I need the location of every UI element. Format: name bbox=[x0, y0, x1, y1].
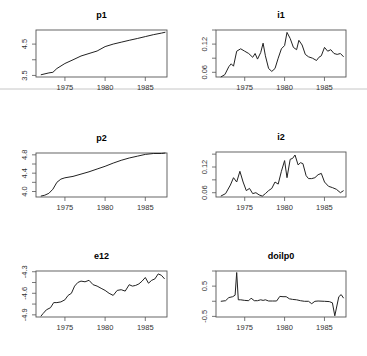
y-tick-label: 4.8 bbox=[20, 150, 29, 160]
series-line bbox=[221, 32, 344, 77]
chart-grid: p11975198019853.54.5 i11975198019850.060… bbox=[0, 0, 367, 356]
panel-i2: i21975198019850.060.12 bbox=[200, 132, 346, 212]
plot-frame bbox=[36, 153, 167, 197]
series-line bbox=[41, 153, 166, 196]
y-tick-label: -4.9 bbox=[20, 308, 29, 321]
y-tick-label: 4.4 bbox=[20, 168, 29, 178]
panel-title: i1 bbox=[277, 10, 285, 20]
series-line bbox=[41, 32, 166, 75]
y-tick-label: 0.5 bbox=[200, 281, 209, 291]
series-line bbox=[221, 155, 344, 196]
x-tick-label: 1985 bbox=[316, 83, 333, 92]
x-tick-label: 1980 bbox=[97, 323, 114, 332]
y-tick-label: 4.0 bbox=[20, 186, 29, 196]
x-tick-label: 1975 bbox=[236, 323, 253, 332]
x-tick-label: 1980 bbox=[276, 83, 293, 92]
y-tick-label: -4.6 bbox=[20, 287, 29, 300]
panel-title: p1 bbox=[96, 10, 107, 20]
y-tick-label: 0.06 bbox=[200, 185, 209, 200]
series-line bbox=[41, 274, 165, 316]
x-tick-label: 1975 bbox=[57, 83, 74, 92]
panel-title: doilp0 bbox=[268, 251, 295, 261]
series-line bbox=[221, 273, 344, 316]
x-tick-label: 1975 bbox=[57, 323, 74, 332]
x-tick-label: 1975 bbox=[236, 203, 253, 212]
plot-frame bbox=[216, 30, 346, 77]
x-tick-label: 1980 bbox=[276, 323, 293, 332]
x-tick-label: 1985 bbox=[316, 203, 333, 212]
x-tick-label: 1975 bbox=[57, 203, 74, 212]
x-tick-label: 1980 bbox=[97, 83, 114, 92]
panel-title: e12 bbox=[94, 251, 109, 261]
x-tick-label: 1985 bbox=[137, 83, 154, 92]
x-tick-label: 1985 bbox=[137, 323, 154, 332]
y-tick-label: 0.12 bbox=[200, 160, 209, 175]
y-tick-label: 0.06 bbox=[200, 65, 209, 80]
x-tick-label: 1980 bbox=[276, 203, 293, 212]
panel-e12: e12197519801985-4.9-4.6-4.3 bbox=[20, 251, 167, 332]
panel-i1: i11975198019850.060.12 bbox=[200, 10, 346, 92]
x-tick-label: 1985 bbox=[137, 203, 154, 212]
x-tick-label: 1985 bbox=[316, 323, 333, 332]
y-tick-label: -4.3 bbox=[20, 265, 29, 278]
plot-frame bbox=[36, 271, 167, 317]
y-tick-label: 4.5 bbox=[20, 39, 29, 49]
panel-title: p2 bbox=[96, 133, 107, 143]
panel-p2: p21975198019854.04.44.8 bbox=[20, 133, 167, 212]
panel-p1: p11975198019853.54.5 bbox=[20, 10, 167, 92]
x-tick-label: 1975 bbox=[236, 83, 253, 92]
panel-doilp0: doilp0197519801985-0.50.5 bbox=[200, 251, 346, 332]
y-tick-label: -0.5 bbox=[200, 310, 209, 323]
y-tick-label: 3.5 bbox=[20, 70, 29, 80]
y-tick-label: 0.12 bbox=[200, 37, 209, 52]
x-tick-label: 1980 bbox=[97, 203, 114, 212]
panel-title: i2 bbox=[277, 132, 285, 142]
